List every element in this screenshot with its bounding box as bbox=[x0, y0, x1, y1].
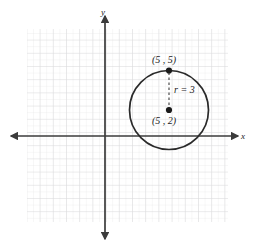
radius-label: r = 3 bbox=[174, 85, 195, 95]
figure-canvas: (5 , 5) (5 , 2) r = 3 y x bbox=[0, 0, 255, 251]
coordinate-plane-diagram bbox=[0, 0, 255, 251]
grid-paper bbox=[27, 29, 228, 222]
y-axis-label: y bbox=[101, 8, 105, 17]
center-point-marker bbox=[166, 107, 172, 113]
x-axis-label: x bbox=[241, 132, 245, 141]
top-point-marker bbox=[166, 67, 172, 73]
center-point-label: (5 , 2) bbox=[152, 116, 176, 126]
top-point-label: (5 , 5) bbox=[152, 55, 176, 65]
